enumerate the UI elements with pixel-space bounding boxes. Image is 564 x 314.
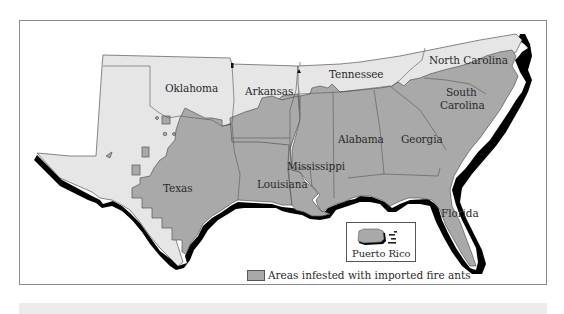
infested-texas-patch-1 [132, 165, 140, 175]
label-alabama: Alabama [338, 133, 384, 145]
legend-label: Areas infested with imported fire ants [268, 269, 471, 281]
fire-ant-map [0, 0, 564, 314]
label-florida: Florida [441, 207, 479, 219]
label-texas: Texas [163, 182, 192, 194]
label-south-carolina-line-2: Carolina [440, 99, 485, 111]
label-georgia: Georgia [401, 133, 443, 145]
legend: Areas infested with imported fire ants [247, 269, 471, 281]
label-mississippi: Mississippi [287, 160, 345, 172]
label-oklahoma: Oklahoma [165, 82, 218, 94]
infested-oklahoma-patch-2 [142, 147, 149, 157]
marker-ok-ar [231, 63, 234, 68]
infested-oklahoma-dot-3 [173, 133, 176, 136]
legend-swatch-infested [247, 270, 265, 281]
puerto-rico-shape [347, 223, 417, 249]
infested-oklahoma-patch-1 [162, 116, 170, 124]
label-north-carolina: North Carolina [429, 54, 508, 66]
label-arkansas: Arkansas [245, 85, 293, 97]
label-louisiana: Louisiana [257, 178, 308, 190]
puerto-rico-inset: Puerto Rico [346, 222, 416, 262]
label-tennessee: Tennessee [329, 68, 383, 80]
label-puerto-rico: Puerto Rico [352, 248, 410, 259]
bottom-bar [19, 303, 547, 314]
infested-oklahoma-dot-2 [163, 132, 167, 136]
infested-oklahoma-dot-1 [156, 117, 159, 120]
label-south-carolina-line-1: South [446, 86, 477, 98]
